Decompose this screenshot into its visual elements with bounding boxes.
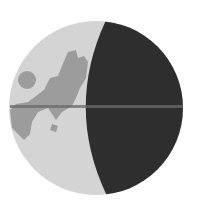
equator-line [10,105,185,108]
globe-crescent-icon [0,0,199,215]
